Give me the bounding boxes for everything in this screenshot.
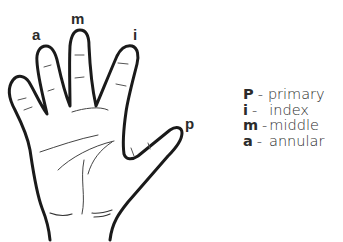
knuckle-crease	[118, 63, 128, 64]
palm-crease-head	[58, 141, 114, 170]
label-primary: p	[185, 116, 194, 131]
legend-row-middle: m-middle	[243, 118, 325, 134]
legend-name: primary	[268, 87, 325, 103]
knuckle-crease	[48, 89, 54, 91]
label-middle: m	[71, 11, 84, 26]
thumb-crease	[131, 148, 134, 156]
legend-name: middle	[269, 118, 319, 134]
knuckle-crease	[116, 84, 126, 86]
legend-separator: -	[252, 103, 257, 119]
label-index: i	[133, 27, 137, 42]
legend-row-index: i-index	[243, 103, 325, 119]
wrist-crease-left	[50, 213, 72, 215]
wrist-crease-right-2	[94, 214, 110, 217]
label-annular: a	[32, 27, 40, 42]
legend-key: a	[243, 134, 253, 150]
palm-crease-life-2	[88, 142, 112, 174]
knuckle-crease	[18, 98, 26, 100]
legend-row-primary: P-primary	[243, 87, 325, 103]
legend-key: i	[243, 103, 248, 119]
hand-diagram: a m i p P-primary i-index m-middle a-ann…	[0, 0, 343, 242]
legend-name: index	[269, 103, 309, 119]
legend-key: P	[243, 87, 254, 103]
legend-separator: -	[262, 118, 267, 134]
palm-crease-life	[82, 160, 84, 214]
legend-separator: -	[258, 87, 263, 103]
knuckle-crease	[44, 65, 51, 67]
wrist-crease-right-1	[92, 210, 112, 213]
legend-name: annular	[269, 134, 324, 150]
legend-key: m	[243, 118, 258, 134]
knuckle-crease	[24, 107, 32, 110]
legend-separator: -	[257, 134, 262, 150]
legend-row-annular: a-annular	[243, 134, 325, 150]
knuckle-crease	[75, 77, 84, 78]
base-finger-crease	[72, 108, 108, 112]
finger-legend: P-primary i-index m-middle a-annular	[243, 87, 325, 149]
